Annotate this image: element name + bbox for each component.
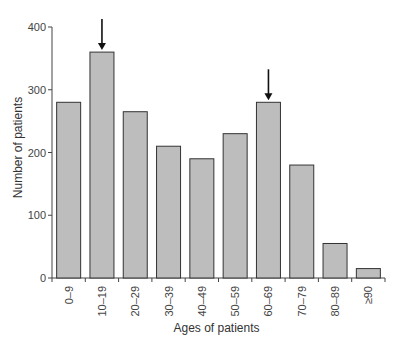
x-tick-label: ≥90 (362, 286, 374, 304)
x-tick-label: 70–79 (296, 286, 308, 317)
y-tick-label: 400 (28, 21, 46, 33)
bar-60–69 (256, 102, 280, 278)
bar-10–19 (90, 52, 114, 278)
x-tick-label: 20–29 (129, 286, 141, 317)
x-tick-label: 60–69 (262, 286, 274, 317)
y-tick-label: 300 (28, 84, 46, 96)
bar-20–29 (123, 112, 147, 278)
x-tick-label: 30–39 (163, 286, 175, 317)
bar-30–39 (157, 146, 181, 278)
y-tick-label: 100 (28, 209, 46, 221)
y-tick-label: 0 (40, 272, 46, 284)
bar-50–59 (223, 134, 247, 278)
bar-chart: 01002003004000–910–1920–2930–3940–4950–5… (0, 0, 398, 349)
x-tick-label: 80–89 (329, 286, 341, 317)
x-axis-title: Ages of patients (173, 321, 259, 335)
bar-0–9 (57, 102, 81, 278)
y-axis-title: Number of patients (11, 97, 25, 198)
y-tick-label: 200 (28, 147, 46, 159)
bar-70–79 (290, 165, 314, 278)
bar-80–89 (323, 243, 347, 278)
bar-40–49 (190, 159, 214, 278)
x-tick-label: 10–19 (96, 286, 108, 317)
bar-≥90 (356, 269, 380, 278)
x-tick-label: 0–9 (63, 286, 75, 304)
x-tick-label: 40–49 (196, 286, 208, 317)
x-tick-label: 50–59 (229, 286, 241, 317)
arrow-down-icon (98, 19, 106, 50)
arrow-down-icon (264, 69, 272, 100)
